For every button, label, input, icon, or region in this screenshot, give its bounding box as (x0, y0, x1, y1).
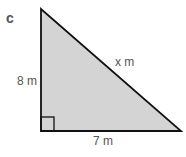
part-label: c (6, 10, 14, 26)
horizontal-side-label: 7 m (93, 134, 113, 148)
hypotenuse-label: x m (115, 55, 134, 69)
vertical-side-label: 8 m (17, 74, 37, 88)
triangle (41, 9, 181, 131)
